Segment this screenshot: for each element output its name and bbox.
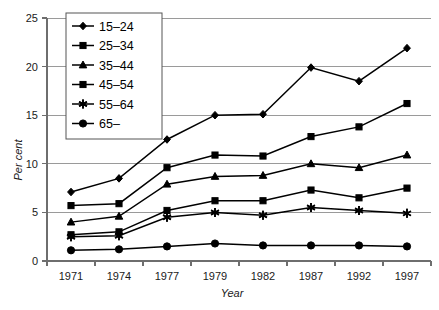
data-point: [212, 111, 219, 119]
data-point: [356, 195, 362, 201]
series-55-64: [67, 203, 411, 241]
data-point: [116, 201, 122, 207]
y-tick-label: 25: [26, 12, 38, 24]
data-point: [164, 165, 170, 171]
data-point: [404, 100, 410, 106]
data-point: [356, 124, 362, 130]
y-axis-title: Per cent: [12, 139, 24, 181]
x-tick-label: 1974: [107, 270, 131, 282]
y-tick-label: 15: [26, 109, 38, 121]
data-point: [355, 242, 362, 249]
data-point: [115, 246, 122, 253]
data-point: [67, 247, 74, 254]
data-point: [260, 198, 266, 204]
legend-label: 35–44: [99, 59, 134, 73]
legend-label: 65–: [99, 117, 120, 131]
data-point: [260, 153, 266, 159]
data-point: [308, 187, 314, 193]
data-point: [404, 44, 411, 52]
legend-label: 55–64: [99, 98, 134, 112]
data-point: [68, 188, 75, 196]
chart-canvas: 0510152025 19711974197719791982198719921…: [0, 0, 439, 310]
y-axis-tick-labels: 0510152025: [26, 12, 38, 267]
y-tick-label: 10: [26, 158, 38, 170]
legend-label: 15–24: [99, 20, 134, 34]
x-tick-label: 1971: [59, 270, 83, 282]
data-point: [308, 134, 314, 140]
data-point: [164, 207, 170, 213]
legend: 15–2425–3435–4445–5455–6465–: [66, 13, 162, 139]
y-tick-label: 20: [26, 61, 38, 73]
legend-marker-square: [80, 42, 86, 48]
data-point: [307, 160, 315, 167]
data-point: [403, 243, 410, 250]
data-point: [163, 243, 170, 250]
legend-marker-circle: [79, 120, 86, 127]
y-tick-label: 0: [32, 255, 38, 267]
line-chart: 0510152025 19711974197719791982198719921…: [0, 0, 439, 310]
legend-label: 45–54: [99, 78, 134, 92]
x-axis-tick-labels: 19711974197719791982198719921997: [59, 270, 419, 282]
x-tick-label: 1982: [251, 270, 275, 282]
data-point: [212, 198, 218, 204]
legend-marker-square: [80, 81, 86, 87]
legend-label: 25–34: [99, 39, 134, 53]
x-tick-label: 1987: [299, 270, 323, 282]
x-tick-label: 1979: [203, 270, 227, 282]
x-axis-title: Year: [221, 287, 245, 299]
data-point: [211, 240, 218, 247]
x-tick-label: 1997: [395, 270, 419, 282]
data-point: [307, 242, 314, 249]
series-65-: [67, 240, 410, 254]
data-point: [259, 242, 266, 249]
data-point: [212, 152, 218, 158]
data-point: [68, 203, 74, 209]
x-tick-label: 1977: [155, 270, 179, 282]
data-point: [404, 185, 410, 191]
data-point: [356, 77, 363, 85]
data-point: [403, 151, 411, 158]
x-tick-label: 1992: [347, 270, 371, 282]
y-tick-label: 5: [32, 206, 38, 218]
data-point: [115, 212, 123, 219]
